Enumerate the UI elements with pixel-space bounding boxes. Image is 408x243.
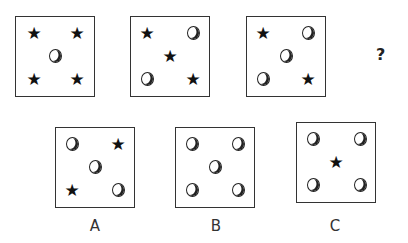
cell-bottom-right: ★ [67, 69, 87, 89]
sequence-box-2: ★ ★ ★ [130, 16, 210, 97]
circle-icon [112, 183, 125, 197]
circle-icon [187, 26, 200, 40]
cell-center [45, 46, 65, 66]
circle-icon [354, 132, 367, 146]
cell-bottom-left [303, 175, 323, 195]
star-icon: ★ [69, 25, 84, 42]
circle-icon [209, 160, 222, 174]
star-icon: ★ [64, 182, 79, 199]
star-icon: ★ [328, 154, 343, 171]
cell-bottom-left [137, 69, 157, 89]
circle-icon [66, 137, 79, 151]
cell-top-right: ★ [108, 134, 128, 154]
cell-bottom-left [182, 180, 202, 200]
cell-bottom-right [108, 180, 128, 200]
cell-bottom-left [253, 69, 273, 89]
circle-icon [232, 137, 245, 151]
circle-icon [302, 26, 315, 40]
cell-center [205, 157, 225, 177]
cell-bottom-left: ★ [62, 180, 82, 200]
option-box-b[interactable] [175, 127, 255, 208]
option-box-a[interactable]: ★ ★ [55, 127, 135, 208]
circle-icon [257, 72, 270, 86]
cell-top-left: ★ [24, 23, 44, 43]
star-icon: ★ [139, 25, 154, 42]
circle-icon [354, 178, 367, 192]
cell-top-right [183, 23, 203, 43]
star-icon: ★ [110, 136, 125, 153]
option-label-b: B [196, 217, 236, 235]
cell-top-left [182, 134, 202, 154]
cell-top-right: ★ [67, 23, 87, 43]
cell-center: ★ [326, 152, 346, 172]
option-label-a: A [75, 217, 115, 235]
sequence-box-1: ★ ★ ★ ★ [15, 16, 95, 97]
cell-bottom-right: ★ [183, 69, 203, 89]
star-icon: ★ [255, 25, 270, 42]
cell-top-left: ★ [253, 23, 273, 43]
circle-icon [186, 183, 199, 197]
circle-icon [186, 137, 199, 151]
circle-icon [280, 49, 293, 63]
cell-top-right [350, 129, 370, 149]
star-icon: ★ [300, 71, 315, 88]
cell-top-right [298, 23, 318, 43]
cell-center: ★ [160, 46, 180, 66]
cell-top-left [303, 129, 323, 149]
cell-top-right [228, 134, 248, 154]
cell-bottom-right [228, 180, 248, 200]
option-box-c[interactable]: ★ [296, 122, 376, 203]
cell-center [276, 46, 296, 66]
star-icon: ★ [69, 71, 84, 88]
question-mark: ? [376, 45, 385, 64]
cell-top-left [62, 134, 82, 154]
option-label-c: C [315, 217, 355, 235]
cell-bottom-right [350, 175, 370, 195]
cell-bottom-left: ★ [24, 69, 44, 89]
star-icon: ★ [26, 71, 41, 88]
circle-icon [141, 72, 154, 86]
sequence-box-3: ★ ★ [246, 16, 326, 97]
circle-icon [89, 160, 102, 174]
cell-center [85, 157, 105, 177]
cell-bottom-right: ★ [298, 69, 318, 89]
circle-icon [49, 49, 62, 63]
star-icon: ★ [185, 71, 200, 88]
star-icon: ★ [162, 48, 177, 65]
circle-icon [232, 183, 245, 197]
cell-top-left: ★ [137, 23, 157, 43]
star-icon: ★ [26, 25, 41, 42]
circle-icon [307, 178, 320, 192]
circle-icon [307, 132, 320, 146]
